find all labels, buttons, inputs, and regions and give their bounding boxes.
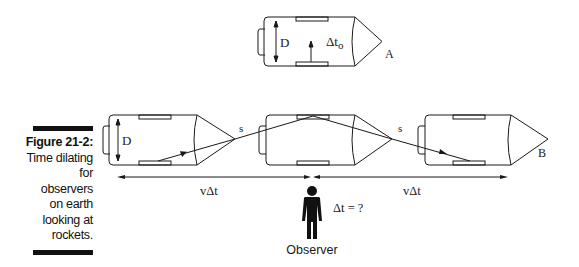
rocket-b-bulkhead	[508, 115, 511, 165]
rocket-left-height-arrowhead-up	[116, 119, 120, 125]
caption-top-rule	[33, 126, 93, 131]
rocket-a-height-arrowhead-down	[274, 56, 278, 62]
rocket-a-top-mirror	[296, 17, 328, 21]
rocket-a-name: A	[385, 47, 394, 61]
rocket-left-height-arrowhead-down	[116, 155, 120, 161]
rocket-middle-nose	[355, 115, 392, 165]
rocket-middle	[259, 115, 392, 165]
rocket-left-bulkhead	[194, 115, 197, 165]
rocket-middle-bulkhead	[352, 115, 355, 165]
rocket-b-body	[425, 115, 511, 165]
caption-bottom-rule	[33, 250, 93, 255]
caption-line: rockets.	[20, 228, 93, 244]
caption-line: observers	[20, 182, 93, 198]
displacement-arrowhead-left-inner	[304, 175, 311, 179]
rocket-left-top-mirror	[139, 115, 171, 119]
rocket-a-time-label: Δto	[326, 34, 344, 51]
caption-line: looking at	[20, 213, 93, 229]
rocket-b-fin	[418, 126, 425, 154]
rocket-b-top-mirror	[453, 115, 485, 119]
displacement-label-left: vΔt	[200, 184, 218, 198]
rocket-b-name: B	[538, 146, 546, 160]
displacement-arrowhead-left-outer	[117, 175, 125, 179]
rocket-left-bottom-mirror	[139, 161, 171, 165]
observer-label: Observer	[286, 243, 337, 257]
rocket-a-light-arrowhead	[309, 41, 313, 47]
rocket-left-height-label: D	[122, 133, 131, 148]
caption-line: Time dilating	[20, 151, 93, 167]
caption-line: for	[20, 166, 93, 182]
displacement-label-right: vΔt	[403, 184, 421, 198]
path-label-2: s	[398, 122, 402, 134]
caption-line: on earth	[20, 197, 93, 213]
rocket-middle-bottom-mirror	[297, 161, 329, 165]
light-path-arrowhead-2	[439, 149, 447, 154]
path-label-1: s	[239, 122, 243, 134]
figure-label: Figure 21-2:	[20, 135, 93, 151]
rocket-a-height-label: D	[280, 35, 289, 50]
observer-icon	[302, 186, 322, 239]
rocket-a-bottom-mirror	[296, 62, 328, 66]
rocket-a-bulkhead	[352, 17, 355, 66]
displacement-arrowhead-right-inner	[313, 175, 320, 179]
rocket-b-bottom-mirror	[453, 161, 485, 165]
rocket-middle-body	[266, 115, 355, 165]
rocket-a-nose	[355, 17, 382, 66]
rocket-a	[258, 17, 382, 66]
rocket-a-height-arrowhead-up	[274, 21, 278, 27]
displacement-arrowhead-right-outer	[500, 175, 508, 179]
figure-caption: Figure 21-2: Time dilating for observers…	[20, 126, 93, 255]
observer-time-label: Δt = ?	[333, 201, 364, 215]
rocket-b	[418, 115, 548, 165]
rocket-left-nose	[197, 115, 235, 165]
